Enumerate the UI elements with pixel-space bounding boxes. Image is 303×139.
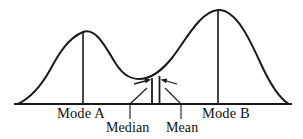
mean-arrow-head — [161, 79, 168, 84]
median-label: Median — [106, 121, 149, 135]
median-arrow-head — [145, 79, 152, 84]
mode-b-label: Mode B — [202, 106, 250, 121]
bimodal-distribution-figure: Mode A Mode B Median Mean — [0, 0, 303, 139]
distribution-chart-svg — [0, 0, 303, 139]
mean-label: Mean — [166, 121, 198, 135]
mode-a-label: Mode A — [57, 106, 105, 121]
density-curve — [18, 10, 289, 104]
mean-leader-bracket — [165, 88, 181, 104]
median-leader-bracket — [130, 88, 147, 104]
